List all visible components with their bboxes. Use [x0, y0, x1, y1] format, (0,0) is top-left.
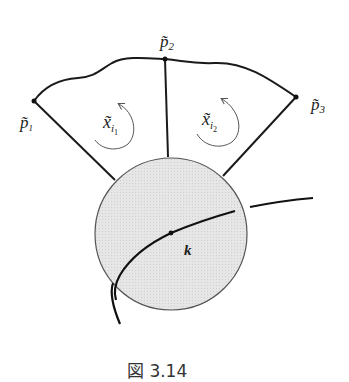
- edge-p2-disk: [165, 59, 168, 157]
- label-p2: p̃2: [159, 32, 175, 52]
- vertex-p1: [32, 99, 37, 104]
- label-p1: p̃1: [19, 113, 33, 133]
- edge-p3-disk: [223, 97, 296, 176]
- figure-diagram: p̃1 p̃2 p̃3 x̃i1 x̃i2 k 図 3.14: [0, 0, 349, 382]
- knot-strand-outer: [250, 198, 313, 207]
- label-xi2: x̃i2: [201, 109, 217, 134]
- vertex-p3: [294, 95, 299, 100]
- figure-caption: 図 3.14: [127, 361, 187, 381]
- label-xi1: x̃i1: [102, 112, 118, 137]
- rotation-arrow-xi1-icon: [95, 104, 134, 149]
- knot-point: [169, 231, 174, 236]
- label-p3: p̃3: [310, 95, 326, 115]
- vertex-p2: [163, 57, 168, 62]
- label-k: k: [184, 242, 192, 258]
